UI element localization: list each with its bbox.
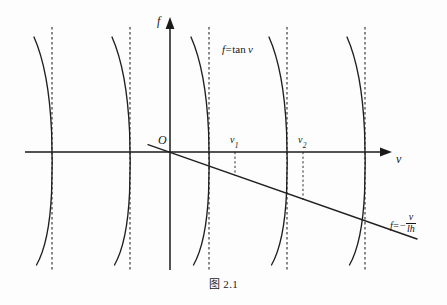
- y-axis-label: f: [157, 15, 160, 27]
- tan-label-argument: v: [248, 43, 253, 55]
- x-axis-arrowhead: [380, 148, 392, 157]
- tan-branch-3: [191, 37, 209, 265]
- line-label-denominator: lh: [406, 223, 416, 235]
- root-1-label: v1: [230, 135, 238, 148]
- tan-branch-2: [112, 37, 130, 265]
- x-axis-label: v: [396, 153, 401, 165]
- linear-curve-label: f=− v lh: [390, 213, 416, 235]
- tan-label-function: tan: [232, 43, 245, 55]
- line-label-fraction: v lh: [406, 212, 416, 234]
- origin-label: O: [158, 134, 167, 146]
- tan-curve-group: [34, 37, 365, 265]
- tan-branch-1: [34, 37, 52, 265]
- tan-curve-label: f=tan v: [222, 44, 253, 55]
- linear-curve: [148, 145, 417, 239]
- tan-branch-5: [347, 37, 365, 265]
- root-1-subscript: 1: [235, 141, 239, 150]
- line-label-minus: −: [399, 220, 406, 231]
- root-2-label: v2: [298, 135, 306, 148]
- figure-caption: 图 2.1: [0, 275, 447, 291]
- y-axis-arrowhead: [166, 17, 175, 29]
- root-2-symbol: v: [298, 134, 302, 145]
- root-1-symbol: v: [230, 134, 234, 145]
- tan-branch-4: [269, 37, 287, 265]
- line-label-numerator: v: [406, 212, 416, 223]
- intersection-droplines-group: [235, 152, 303, 200]
- axes-group: [25, 24, 389, 270]
- figure-2-1: f v O f=tan v v1 v2 f=− v lh 图 2.1: [0, 0, 447, 305]
- root-2-subscript: 2: [303, 141, 307, 150]
